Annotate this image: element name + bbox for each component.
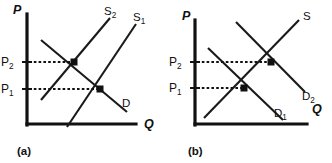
panel-a-y-axis-label: P bbox=[13, 3, 22, 17]
panel-a-equilibrium-point-e2 bbox=[71, 59, 78, 66]
panel-a-label-s2: S2 bbox=[104, 5, 117, 20]
panel-b-y-axis-label: P bbox=[182, 9, 191, 23]
panel-a-label-s1: S1 bbox=[133, 11, 146, 26]
panel-b-price-label-p1: P1 bbox=[169, 81, 182, 97]
panel-b-price-label-p2: P2 bbox=[169, 55, 182, 71]
panel-b-caption: (b) bbox=[188, 145, 203, 157]
panel-a-price-label-p2: P2 bbox=[1, 55, 14, 71]
panel-a-label-d: D bbox=[122, 97, 130, 109]
panel-a-price-label-p1: P1 bbox=[1, 82, 14, 98]
supply-demand-figure: P Q S2 S1 D P2 P1 ( bbox=[0, 0, 332, 163]
panel-b-equilibrium-point-e2 bbox=[268, 59, 275, 66]
panel-a-equilibrium-point-e1 bbox=[97, 86, 104, 93]
panel-b-supply-curve-s bbox=[204, 20, 299, 118]
panel-b-demand-curve-d2 bbox=[236, 22, 305, 92]
panel-b-equilibrium-point-e1 bbox=[241, 85, 248, 92]
panel-b-label-d1: D1 bbox=[274, 107, 287, 122]
panel-a: P Q S2 S1 D P2 P1 ( bbox=[0, 0, 166, 163]
panel-b: P Q S D2 D1 P2 P1 ( bbox=[166, 0, 332, 163]
panel-b-label-s: S bbox=[303, 10, 311, 22]
panel-a-x-axis-label: Q bbox=[144, 117, 154, 131]
panel-a-caption: (a) bbox=[17, 145, 31, 157]
panel-b-label-d2: D2 bbox=[302, 90, 315, 105]
